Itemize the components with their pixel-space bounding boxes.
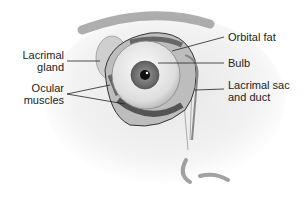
- label-lacrimal-sac: Lacrimal sac and duct: [228, 79, 290, 103]
- label-line: Lacrimal: [8, 49, 64, 61]
- label-ocular-muscles: Ocular muscles: [8, 82, 64, 106]
- label-line: Lacrimal sac: [228, 79, 290, 91]
- highlight: [146, 72, 148, 74]
- label-line: and duct: [228, 91, 290, 103]
- label-lacrimal-gland: Lacrimal gland: [8, 49, 64, 73]
- label-line: gland: [8, 61, 64, 73]
- pupil: [140, 70, 150, 80]
- label-bulb: Bulb: [228, 57, 250, 69]
- label-line: muscles: [8, 94, 64, 106]
- label-orbital-fat: Orbital fat: [228, 31, 276, 43]
- label-line: Ocular: [8, 82, 64, 94]
